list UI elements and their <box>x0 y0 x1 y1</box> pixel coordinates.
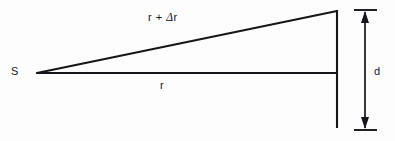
hypotenuse-line <box>37 11 337 73</box>
baseline-label: r <box>160 80 164 91</box>
geometry-figure: S r + Δr r d <box>0 0 395 141</box>
diagram-canvas <box>0 0 395 141</box>
hypotenuse-label-prefix: r + <box>148 11 166 23</box>
source-point-label: S <box>11 66 19 77</box>
dimension-label: d <box>374 66 381 77</box>
hypotenuse-label: r + Δr <box>148 12 178 24</box>
dimension-arrowhead-up <box>361 11 369 23</box>
hypotenuse-label-suffix: r <box>173 11 177 23</box>
dimension-arrowhead-down <box>361 117 369 129</box>
